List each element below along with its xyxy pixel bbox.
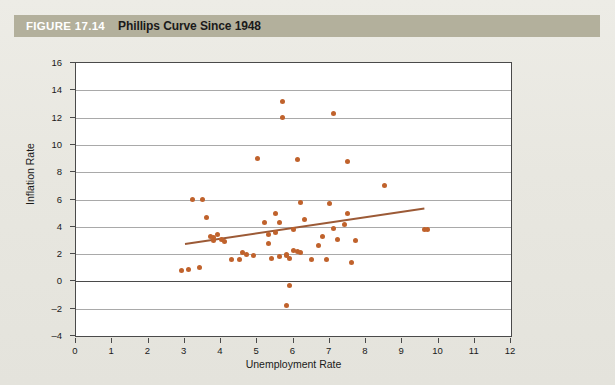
y-tick-label-16: 16	[51, 57, 62, 68]
y-tick-mark-8	[70, 171, 75, 172]
data-point	[190, 197, 195, 202]
data-point	[425, 227, 430, 232]
x-tick-mark-11	[474, 338, 475, 343]
plot-area	[75, 62, 512, 337]
data-point	[302, 217, 307, 222]
data-point	[335, 237, 340, 242]
y-tick-label-10: 10	[51, 138, 62, 149]
data-point	[309, 257, 314, 262]
x-tick-mark-7	[329, 338, 330, 343]
data-point	[287, 256, 292, 261]
data-point	[320, 234, 325, 239]
x-tick-label-2: 2	[145, 345, 150, 356]
y-tick-mark-16	[70, 62, 75, 63]
data-point	[382, 183, 387, 188]
data-point	[331, 111, 336, 116]
x-tick-label-10: 10	[432, 345, 443, 356]
y-tick-label--2: –2	[51, 302, 62, 313]
figure-title-text: Phillips Curve Since 1948	[118, 19, 261, 33]
y-tick-mark-14	[70, 89, 75, 90]
x-tick-label-3: 3	[181, 345, 186, 356]
x-tick-label-8: 8	[362, 345, 367, 356]
x-axis-tick-labels: 0123456789101112	[75, 338, 512, 360]
y-tick-mark-4	[70, 226, 75, 227]
y-tick-label-14: 14	[51, 84, 62, 95]
scatter-points-layer	[76, 63, 511, 336]
data-point	[298, 250, 303, 255]
data-point	[211, 238, 216, 243]
y-tick-label-6: 6	[57, 193, 62, 204]
data-point	[291, 227, 296, 232]
x-tick-mark-0	[75, 338, 76, 343]
x-tick-label-1: 1	[109, 345, 114, 356]
x-tick-mark-1	[111, 338, 112, 343]
x-tick-label-4: 4	[217, 345, 222, 356]
data-point	[280, 115, 285, 120]
y-tick-label--4: –4	[51, 330, 62, 341]
data-point	[287, 283, 292, 288]
data-point	[316, 243, 321, 248]
data-point	[197, 265, 202, 270]
figure-number-label: FIGURE 17.14	[26, 20, 105, 32]
x-tick-label-12: 12	[505, 345, 516, 356]
x-tick-mark-4	[220, 338, 221, 343]
y-tick-mark-2	[70, 253, 75, 254]
x-tick-mark-12	[510, 338, 511, 343]
data-point	[345, 211, 350, 216]
y-tick-label-4: 4	[57, 220, 62, 231]
y-tick-label-0: 0	[57, 275, 62, 286]
y-axis-tick-labels: –4–20246810121416	[46, 62, 70, 337]
x-tick-label-11: 11	[469, 345, 479, 356]
data-point	[229, 257, 234, 262]
y-tick-mark--2	[70, 308, 75, 309]
x-tick-mark-8	[365, 338, 366, 343]
data-point	[353, 238, 358, 243]
data-point	[204, 215, 209, 220]
data-point	[266, 232, 271, 237]
x-axis-title: Unemployment Rate	[75, 358, 512, 370]
data-point	[342, 222, 347, 227]
x-tick-mark-5	[256, 338, 257, 343]
figure-title-bar: FIGURE 17.14 Phillips Curve Since 1948	[14, 15, 600, 37]
data-point	[324, 257, 329, 262]
data-point	[277, 220, 282, 225]
data-point	[269, 256, 274, 261]
data-point	[298, 200, 303, 205]
data-point	[237, 257, 242, 262]
y-tick-mark-0	[70, 280, 75, 281]
x-tick-mark-2	[148, 338, 149, 343]
y-tick-label-2: 2	[57, 248, 62, 259]
data-point	[251, 253, 256, 258]
data-point	[349, 260, 354, 265]
data-point	[327, 201, 332, 206]
data-point	[262, 220, 267, 225]
y-tick-mark-10	[70, 144, 75, 145]
data-point	[200, 197, 205, 202]
y-tick-label-12: 12	[51, 111, 62, 122]
x-tick-label-6: 6	[290, 345, 295, 356]
data-point	[273, 230, 278, 235]
data-point	[295, 157, 300, 162]
x-tick-mark-3	[184, 338, 185, 343]
data-point	[331, 226, 336, 231]
x-tick-label-7: 7	[326, 345, 331, 356]
data-point	[255, 156, 260, 161]
data-point	[186, 267, 191, 272]
data-point	[284, 303, 289, 308]
data-point	[273, 211, 278, 216]
data-point	[277, 254, 282, 259]
data-point	[345, 159, 350, 164]
y-tick-mark--4	[70, 335, 75, 336]
data-point	[280, 99, 285, 104]
x-tick-label-0: 0	[72, 345, 77, 356]
y-axis-title: Inflation Rate	[24, 114, 36, 234]
x-tick-mark-10	[438, 338, 439, 343]
data-point	[266, 241, 271, 246]
x-tick-mark-6	[293, 338, 294, 343]
y-tick-label-8: 8	[57, 166, 62, 177]
data-point	[244, 252, 249, 257]
figure-container: FIGURE 17.14 Phillips Curve Since 1948 –…	[0, 0, 615, 385]
data-point	[179, 268, 184, 273]
x-tick-label-5: 5	[254, 345, 259, 356]
x-tick-mark-9	[401, 338, 402, 343]
